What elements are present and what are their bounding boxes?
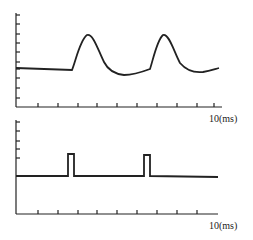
bottom-pulse-train [16,154,218,177]
top-waveform [16,35,219,75]
bottom-x-unit-label: 10(ms) [209,220,237,231]
top-chart [16,13,222,107]
top-x-unit-label: 10(ms) [209,113,237,124]
bottom-chart [16,120,218,214]
